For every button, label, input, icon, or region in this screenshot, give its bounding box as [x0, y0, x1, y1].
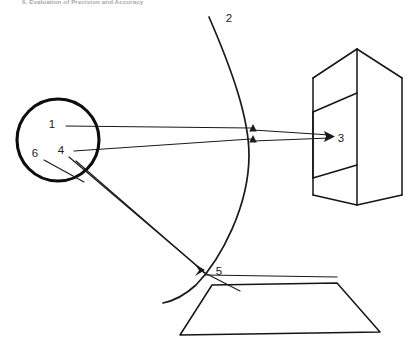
curved-surface-arc: [163, 17, 249, 303]
callout-label-5: 5: [216, 265, 222, 277]
callout-label-6: 6: [32, 147, 38, 159]
arrow-into-prism: [324, 131, 335, 142]
callout-label-4: 4: [58, 144, 65, 156]
prism-block: [313, 49, 402, 205]
technical-diagram: 1 2 3 4 5 6: [0, 0, 417, 351]
callout-label-1: 1: [49, 118, 55, 130]
source-circle: [17, 99, 99, 181]
ray-path-to-intersection: [69, 157, 205, 273]
ray-path-upper: [66, 126, 330, 135]
ray-path-lower: [74, 138, 330, 151]
ground-plane-parallelogram: [180, 283, 380, 335]
figure-root: 6. Evaluation of Precision and Accuracy: [0, 0, 417, 351]
callout-label-3: 3: [338, 132, 344, 144]
callout-label-2: 2: [226, 12, 232, 24]
ray-segments-at-intersection: [203, 272, 337, 291]
